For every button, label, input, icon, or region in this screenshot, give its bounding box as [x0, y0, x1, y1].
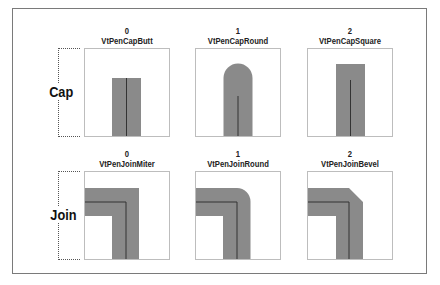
join-bevel-stroke — [308, 188, 363, 259]
cap-square-stroke — [336, 64, 365, 136]
stroke-illustrations — [0, 0, 440, 285]
cap-round-stroke — [224, 63, 253, 136]
cap-butt-stroke — [112, 78, 141, 136]
join-round-stroke — [196, 188, 251, 259]
join-miter-stroke — [85, 188, 139, 259]
